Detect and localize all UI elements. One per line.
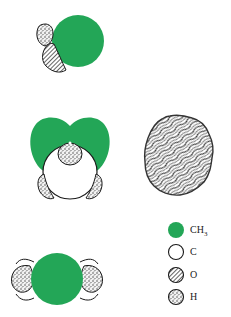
legend-swatch-ch3 [168, 222, 184, 238]
crystal-packing-blob [145, 115, 213, 195]
legend-label-hydrogen: H [190, 292, 197, 302]
hydrogen-atom-top [58, 143, 82, 165]
hydrogen-atom-left [11, 265, 33, 292]
legend [168, 222, 184, 305]
hydrogen-atom [37, 24, 53, 46]
legend-swatch-hydrogen [169, 290, 184, 305]
molecule-side-view [37, 15, 104, 72]
hydrogen-atom-right [81, 265, 103, 292]
textured-blob [145, 115, 213, 195]
ch3-atom [31, 253, 83, 305]
molecule-front-view [30, 117, 109, 199]
legend-swatch-oxygen [169, 268, 184, 283]
legend-swatch-carbon [169, 245, 184, 260]
molecule-top-view [11, 253, 102, 305]
legend-label-ch3: CH3 [190, 225, 207, 239]
legend-label-oxygen: O [190, 270, 197, 280]
junction-dot [69, 142, 72, 145]
legend-label-carbon: C [190, 247, 197, 257]
